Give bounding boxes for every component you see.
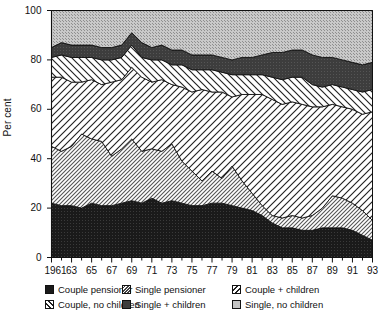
legend-label-single-plus-children: Single + children — [135, 299, 206, 310]
y-tick-label: 100 — [16, 6, 42, 16]
y-tick-label: 20 — [16, 203, 42, 213]
legend-label-couple-plus-children: Couple + children — [245, 284, 319, 295]
x-tick-label: 75 — [184, 266, 200, 276]
x-tick-label: 79 — [224, 266, 240, 276]
legend-swatch-single-no-children — [232, 300, 241, 309]
y-tick-label: 60 — [16, 104, 42, 114]
legend-label-single-no-children: Single, no children — [245, 299, 323, 310]
x-tick-label: 65 — [84, 266, 100, 276]
area-series-group — [52, 11, 373, 258]
x-tick-label: 87 — [304, 266, 320, 276]
x-tick-label: 71 — [144, 266, 160, 276]
x-tick-label: 69 — [124, 266, 140, 276]
chart-legend: Couple pensioner Single pensioner Couple… — [0, 282, 387, 316]
x-tick-label: 77 — [204, 266, 220, 276]
legend-swatch-couple-no-children — [45, 300, 54, 309]
legend-swatch-couple-plus-children — [232, 285, 241, 294]
legend-item-single-plus-children: Single + children — [122, 297, 232, 312]
legend-item-single-no-children: Single, no children — [232, 297, 387, 312]
x-tick-label: 73 — [164, 266, 180, 276]
legend-item-couple-pensioner: Couple pensioner — [0, 282, 122, 297]
legend-row-1: Couple pensioner Single pensioner Couple… — [0, 282, 387, 297]
x-tick-label: 81 — [244, 266, 260, 276]
legend-swatch-single-pensioner — [122, 285, 131, 294]
x-tick-label: 93 — [365, 266, 381, 276]
legend-item-single-pensioner: Single pensioner — [122, 282, 232, 297]
x-tick-label: 67 — [104, 266, 120, 276]
stacked-area-chart: Per cent — [0, 0, 387, 320]
x-tick-label: 63 — [64, 266, 80, 276]
y-tick-label: 80 — [16, 55, 42, 65]
x-tick-label: 85 — [284, 266, 300, 276]
y-tick-label: 0 — [16, 253, 42, 263]
x-tick-label: 89 — [324, 266, 340, 276]
x-tick-label: 91 — [344, 266, 360, 276]
legend-swatch-single-plus-children — [122, 300, 131, 309]
x-tick-label: 83 — [264, 266, 280, 276]
legend-item-couple-plus-children: Couple + children — [232, 282, 387, 297]
legend-row-2: Couple, no children Single + children Si… — [0, 297, 387, 312]
legend-item-couple-no-children: Couple, no children — [0, 297, 122, 312]
legend-label-single-pensioner: Single pensioner — [135, 284, 206, 295]
legend-swatch-couple-pensioner — [45, 285, 54, 294]
y-tick-label: 40 — [16, 154, 42, 164]
